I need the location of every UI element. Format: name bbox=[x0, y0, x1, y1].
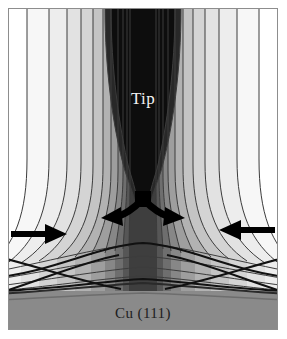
figure-frame: Tip Cu (111) bbox=[8, 8, 278, 330]
figure-root: Tip Cu (111) bbox=[0, 0, 287, 339]
contour-plot bbox=[9, 9, 277, 329]
